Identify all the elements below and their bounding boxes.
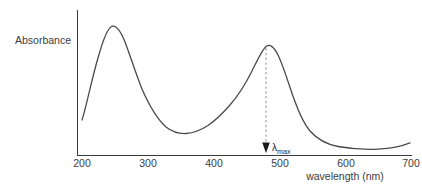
xtick-label-4: 600 xyxy=(337,157,355,169)
absorbance-spectrum-figure: 200 300 400 500 600 700 Absorbance wavel… xyxy=(0,0,422,195)
spectrum-curve xyxy=(82,26,410,149)
y-axis-title: Absorbance xyxy=(15,34,71,46)
lambda-max-subscript: max xyxy=(277,147,291,156)
x-axis-title: wavelength (nm) xyxy=(305,170,384,182)
xtick-label-2: 400 xyxy=(205,157,223,169)
xtick-label-5: 700 xyxy=(402,157,420,169)
lambda-max-annotation: λmax xyxy=(272,142,291,156)
xtick-label-3: 500 xyxy=(271,157,289,169)
lambda-max-arrow-icon xyxy=(262,143,270,154)
xtick-label-1: 300 xyxy=(139,157,157,169)
xtick-label-0: 200 xyxy=(73,157,91,169)
chart-canvas: 200 300 400 500 600 700 Absorbance wavel… xyxy=(0,0,422,195)
